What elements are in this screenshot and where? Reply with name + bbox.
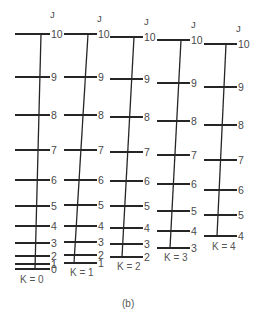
j-level-label: 6 [51,174,57,186]
j-level-label: 9 [51,71,57,83]
j-level-label: 5 [98,199,104,211]
j-level-label: 5 [144,200,150,212]
figure-caption: (b) [122,298,134,309]
j-level-label: 3 [98,236,104,248]
j-axis-header: J [50,9,55,20]
j-level-label: 3 [51,237,57,249]
j-level-label: 5 [51,200,57,212]
j-level-label: 9 [238,81,244,93]
j-level-label: 7 [144,146,150,158]
j-level-label: 5 [191,205,197,217]
j-level-label: 4 [51,220,57,232]
j-level-label: 8 [51,109,57,121]
j-level-label: 1 [98,257,104,269]
j-level-label: 4 [144,222,150,234]
j-level-label: 5 [238,209,244,221]
j-level-label: 9 [191,77,197,89]
ladder-stem [170,40,181,248]
k-value-label: K = 0 [20,274,44,285]
j-level-label: 10 [51,28,63,40]
j-level-label: 6 [144,175,150,187]
k-ladders: J109876543210K = 0J10987654321K = 1J1098… [15,9,250,285]
j-level-label: 8 [191,115,197,127]
j-level-label: 10 [144,31,156,43]
j-level-label: 4 [238,230,244,242]
ladder-stem [74,34,88,263]
j-level-label: 9 [98,71,104,83]
k-ladder-column: J1098765432K = 2 [110,16,156,272]
ladder-stem [35,34,41,269]
j-level-label: 8 [238,119,244,131]
ladder-stem [217,44,226,236]
j-level-label: 6 [191,178,197,190]
k-value-label: K = 1 [70,267,94,278]
k-ladder-column: J109876543210K = 0 [15,9,63,285]
k-value-label: K = 4 [212,241,236,252]
j-level-label: 7 [191,149,197,161]
j-level-label: 7 [51,144,57,156]
k-ladder-column: J10987654321K = 1 [64,13,110,278]
j-level-label: 7 [238,154,244,166]
j-level-label: 4 [98,220,104,232]
j-level-label: 6 [238,184,244,196]
rotational-energy-level-diagram: J109876543210K = 0J10987654321K = 1J1098… [0,0,260,319]
k-ladder-column: J10987654K = 4 [204,23,250,252]
j-axis-header: J [191,19,196,30]
j-level-label: 6 [98,174,104,186]
j-level-label: 3 [144,238,150,250]
j-level-label: 8 [98,109,104,121]
j-axis-header: J [97,13,102,24]
k-ladder-column: J109876543K = 3 [157,19,203,263]
ladder-stem [122,37,134,257]
j-level-label: 3 [191,242,197,254]
j-axis-header: J [144,16,149,27]
j-level-label: 4 [191,225,197,237]
j-level-label: 10 [191,34,203,46]
j-level-label: 9 [144,73,150,85]
j-level-label: 0 [51,263,57,275]
j-axis-header: J [236,23,241,34]
j-level-label: 10 [98,28,110,40]
j-level-label: 10 [238,38,250,50]
j-level-label: 7 [98,144,104,156]
k-value-label: K = 3 [164,252,188,263]
j-level-label: 8 [144,111,150,123]
k-value-label: K = 2 [117,261,141,272]
j-level-label: 2 [144,251,150,263]
